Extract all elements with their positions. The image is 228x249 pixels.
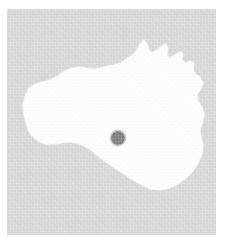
map-figure	[0, 0, 228, 249]
location-marker-dot[interactable]	[111, 131, 125, 145]
map-canvas	[7, 9, 216, 235]
marker-layer	[110, 130, 126, 146]
land-layer	[23, 40, 204, 190]
map-panel[interactable]	[7, 9, 216, 235]
